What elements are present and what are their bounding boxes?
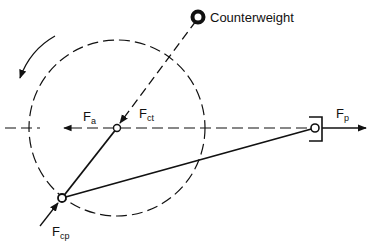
crank-arm [62, 128, 117, 198]
connecting-rod [62, 128, 315, 198]
fcp-label: Fcp [52, 224, 69, 241]
counterweight-icon [193, 12, 204, 23]
fa-label: Fa [83, 109, 96, 126]
fct-label: Fct [139, 106, 154, 123]
crank-pin [58, 194, 66, 202]
counterweight-label: Counterweight [210, 10, 294, 25]
piston-pin [311, 124, 319, 132]
fcp-arrow [40, 203, 58, 226]
fp-label: Fp [336, 106, 349, 123]
crank-force-diagram: Counterweight Fa Fct Fp Fcp [0, 0, 374, 252]
crank-center-pin [114, 125, 121, 132]
fct-arrow [120, 21, 196, 123]
